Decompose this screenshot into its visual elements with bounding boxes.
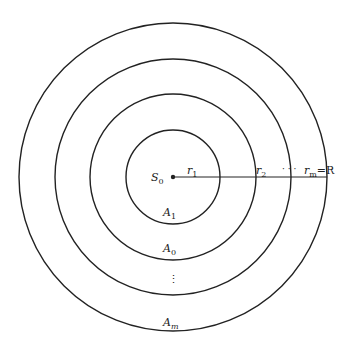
r1-label: r1 (187, 164, 197, 179)
r2-label: r2 (256, 164, 266, 179)
region-am-label: Am (162, 316, 179, 331)
center-point (171, 175, 175, 179)
region-a0-label: A0 (162, 242, 176, 257)
concentric-circles-diagram: S0 r1 r2 · · · rm=R A1 A0 ⋮ Am (0, 0, 350, 350)
radii-ellipsis: · · · (282, 164, 296, 174)
rm-label: rm=R (304, 164, 335, 179)
region-ellipsis: ⋮ (168, 273, 179, 286)
center-label: S0 (151, 171, 164, 186)
region-a1-label: A1 (162, 206, 176, 221)
